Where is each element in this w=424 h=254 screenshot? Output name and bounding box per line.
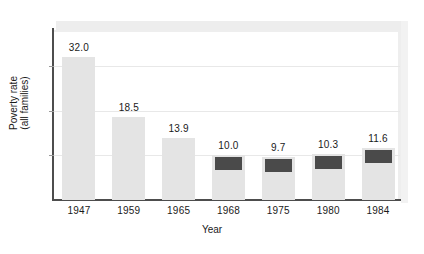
bar-1965	[162, 138, 195, 200]
poverty-rate-bar-chart: 32.018.513.910.09.710.311.6 194719591965…	[0, 0, 424, 254]
bar-value-label-1984: 11.6	[348, 133, 408, 144]
y-axis-title-line2: (all families)	[19, 48, 30, 158]
y-axis-title: Poverty rate (all families)	[8, 48, 30, 158]
x-tick-label-1984: 1984	[348, 205, 408, 216]
y-tick-20	[49, 111, 54, 112]
bar-value-label-1959: 18.5	[99, 102, 159, 113]
plot-right-shadow-band	[401, 21, 408, 203]
bar-1959	[112, 117, 145, 200]
y-tick-10	[49, 155, 54, 156]
bar-1947	[62, 57, 95, 200]
x-axis-title: Year	[0, 224, 424, 235]
bar-cap-1984	[365, 150, 392, 163]
gridline-30	[54, 66, 400, 67]
y-axis-title-line1: Poverty rate	[8, 48, 19, 158]
bar-cap-1968	[215, 157, 242, 170]
y-tick-30	[49, 66, 54, 67]
bar-cap-1975	[265, 159, 292, 172]
y-axis-line	[52, 28, 54, 201]
bar-value-label-1965: 13.9	[149, 123, 209, 134]
bar-cap-1980	[315, 156, 342, 169]
plot-top-shadow-band	[56, 21, 408, 30]
bar-value-label-1947: 32.0	[49, 42, 109, 53]
